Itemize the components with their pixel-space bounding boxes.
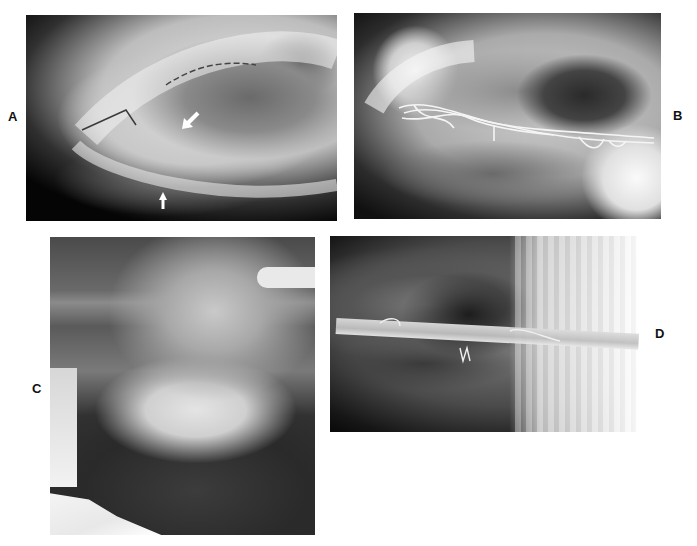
wire-icon (399, 105, 654, 148)
arrow-down-left-icon (182, 113, 198, 129)
panel-a-radiograph (26, 15, 337, 221)
sheet-bottom (50, 493, 161, 535)
sheet-left (50, 368, 77, 487)
gloved-thumb (257, 267, 315, 288)
figure-caption (20, 539, 680, 546)
wire-fixation-overlay (354, 13, 661, 219)
panel-d-radiograph (330, 236, 639, 432)
rod-overlay (330, 236, 639, 432)
arrow-up-icon (159, 192, 167, 209)
panel-label-b: B (673, 109, 682, 122)
panel-b-radiograph (354, 13, 661, 219)
panel-label-d: D (655, 327, 664, 340)
panel-c-photograph (50, 237, 315, 535)
panel-a-overlay (26, 15, 337, 221)
panel-label-c: C (32, 382, 41, 395)
panel-label-a: A (8, 110, 17, 123)
